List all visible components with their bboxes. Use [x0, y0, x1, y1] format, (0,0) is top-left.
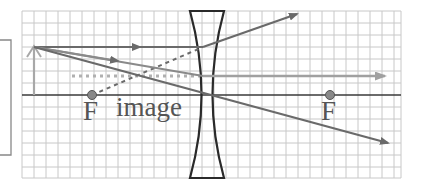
side-box: [0, 40, 11, 155]
focal-label-left: F: [83, 98, 98, 125]
focal-label-right: F: [321, 98, 336, 125]
image-label: image: [116, 94, 182, 121]
diagram-canvas: [0, 0, 421, 192]
ray-diagram: F image F: [0, 0, 421, 192]
